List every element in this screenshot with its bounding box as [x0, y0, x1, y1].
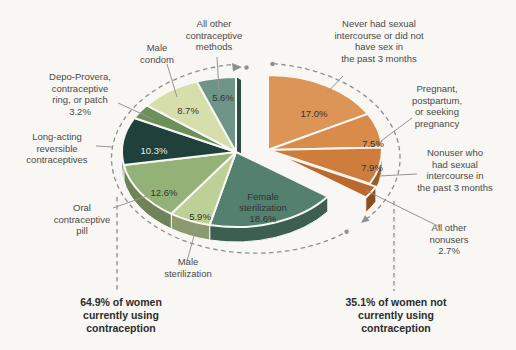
label-larc: Long-acting reversible contraceptives [7, 131, 107, 166]
dot-marker [270, 62, 274, 66]
label-pregnant: Pregnant, postpartum, or seeking pregnan… [387, 83, 487, 129]
summary-users: 64.9% of women currently using contracep… [41, 296, 201, 335]
arrow-icon [232, 63, 242, 72]
label-nonuser-had-sex: Nonuser who had sexual intercourse in th… [395, 147, 515, 193]
label-male-condom: Male condom [117, 42, 197, 65]
dot-marker [344, 230, 348, 234]
label-depo-provera: Depo-Provera, contraceptive ring, or pat… [20, 71, 140, 117]
arrow-icon [361, 215, 370, 223]
label-all-other-nonusers: All other nonusers 2.7% [404, 222, 494, 257]
label-never-had-sex: Never had sexual intercourse or did not … [309, 18, 449, 64]
pie-slices [122, 75, 382, 242]
dot-marker [244, 65, 248, 69]
label-male-sterilization: Male sterilization [138, 256, 238, 279]
summary-nonusers: 35.1% of women not currently using contr… [316, 296, 476, 335]
label-oral-pill: Oral contraceptive pill [32, 202, 132, 237]
contraception-pie-figure: All other contraceptive methods Male con… [0, 0, 516, 350]
